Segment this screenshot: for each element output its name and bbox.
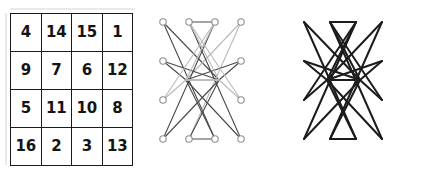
graph-node xyxy=(186,136,192,142)
panel-magic-square: 4 14 15 1 9 7 6 12 5 11 10 8 xyxy=(0,0,141,172)
graph-node xyxy=(212,136,218,142)
graph-collapsed-svg xyxy=(282,0,423,172)
graph-node xyxy=(160,19,166,25)
table-row: 4 14 15 1 xyxy=(11,14,133,52)
graph-node xyxy=(160,97,166,103)
cell-r3c0: 16 xyxy=(11,128,42,166)
cell-r3c1: 2 xyxy=(41,128,72,166)
graph-node xyxy=(186,19,192,25)
magic-square-body: 4 14 15 1 9 7 6 12 5 11 10 8 xyxy=(11,14,133,166)
graph-light-edges xyxy=(163,22,241,139)
cell-r1c3: 12 xyxy=(102,52,133,90)
graph-edge xyxy=(163,22,215,100)
graph-edge xyxy=(186,80,241,139)
graph-dark-edges xyxy=(304,22,382,139)
graph-node xyxy=(238,58,244,64)
graph-node xyxy=(160,58,166,64)
cell-r1c2: 6 xyxy=(72,52,103,90)
cell-r0c0: 4 xyxy=(11,14,42,52)
graph-node xyxy=(212,19,218,25)
panel-graph-with-nodes xyxy=(141,0,282,172)
cell-r0c1: 14 xyxy=(41,14,72,52)
graph-node xyxy=(238,97,244,103)
cell-r0c2: 15 xyxy=(72,14,103,52)
cell-r2c1: 11 xyxy=(41,90,72,128)
cell-r2c0: 5 xyxy=(11,90,42,128)
graph-node xyxy=(238,136,244,142)
cell-r3c3: 13 xyxy=(102,128,133,166)
cell-r2c2: 10 xyxy=(72,90,103,128)
figure-root: 4 14 15 1 9 7 6 12 5 11 10 8 xyxy=(0,0,423,172)
cell-r1c0: 9 xyxy=(11,52,42,90)
cell-r1c1: 7 xyxy=(41,52,72,90)
graph-node xyxy=(238,19,244,25)
table-row: 16 2 3 13 xyxy=(11,128,133,166)
cell-r3c2: 3 xyxy=(72,128,103,166)
table-row: 9 7 6 12 xyxy=(11,52,133,90)
cell-r0c3: 1 xyxy=(102,14,133,52)
graph-node xyxy=(160,136,166,142)
magic-square-table: 4 14 15 1 9 7 6 12 5 11 10 8 xyxy=(10,13,133,166)
panel-graph-collapsed xyxy=(282,0,423,172)
table-row: 5 11 10 8 xyxy=(11,90,133,128)
scan-edge-left xyxy=(5,13,7,165)
graph-with-nodes-svg xyxy=(141,0,282,172)
cell-r2c3: 8 xyxy=(102,90,133,128)
scan-edge-top xyxy=(10,8,135,10)
